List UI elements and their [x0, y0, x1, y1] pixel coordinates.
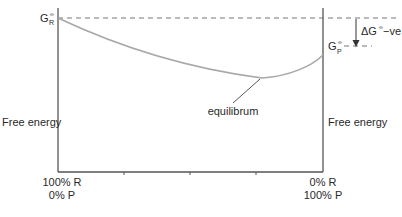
equilibrium-leader-line: [233, 79, 260, 103]
right-axis-label: Free energy: [328, 116, 388, 128]
product-g-label: G: [328, 40, 337, 52]
x-axis-left-label-line2: 0% P: [49, 189, 75, 201]
x-axis-right-label-line2: 100% P: [304, 189, 343, 201]
free-energy-diagram: G ⦵ R G ⦵ P ΔG ⦵ −ve Free energy Free en…: [0, 0, 402, 217]
delta-g-suffix: −ve: [383, 25, 401, 37]
equilibrium-label: equilibrum: [208, 105, 259, 117]
reactant-g-subscript: R: [49, 19, 54, 26]
reactant-g-label: G: [40, 12, 49, 24]
product-g-superscript: ⦵: [337, 38, 343, 45]
free-energy-curve: [58, 18, 323, 78]
delta-g-label: ΔG: [361, 25, 377, 37]
product-g-subscript: P: [337, 48, 342, 55]
reactant-g-superscript: ⦵: [49, 10, 55, 17]
left-axis-label: Free energy: [2, 116, 62, 128]
x-axis-left-label-line1: 100% R: [42, 176, 81, 188]
x-axis-right-label-line1: 0% R: [310, 176, 337, 188]
